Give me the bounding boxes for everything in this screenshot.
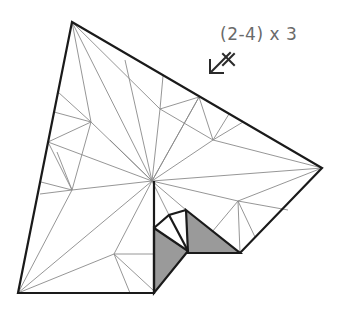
shaded-flaps: [154, 210, 240, 293]
arrow-down-left-with-cross-icon: [210, 53, 234, 73]
crease-pattern-diagram: [0, 0, 350, 311]
